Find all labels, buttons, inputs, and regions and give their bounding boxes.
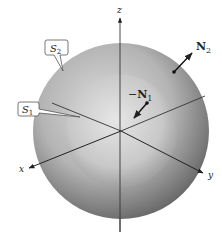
y-axis-label: y xyxy=(207,170,214,180)
n2-label: N2 xyxy=(196,40,211,55)
x-axis-label: x xyxy=(19,164,24,174)
concentric-spheres-diagram: z x y N2 −N1 S2 S1 xyxy=(0,0,222,241)
z-axis-label: z xyxy=(116,5,122,15)
